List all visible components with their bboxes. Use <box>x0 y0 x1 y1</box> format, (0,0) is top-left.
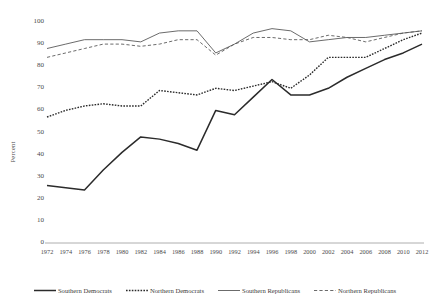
legend-swatch-icon <box>126 287 148 294</box>
legend-item: Southern Democrats <box>34 287 112 294</box>
x-axis-tick-label: 1982 <box>134 249 147 255</box>
x-axis-tick-label: 1980 <box>116 249 129 255</box>
legend-item: Northern Republicans <box>314 287 396 294</box>
legend-label: Northern Republicans <box>338 287 396 294</box>
x-axis-tick-label: 1974 <box>59 249 72 255</box>
x-axis-tick-label: 1978 <box>97 249 110 255</box>
legend-swatch-icon <box>218 287 240 294</box>
x-axis-tick-label: 1998 <box>284 249 297 255</box>
x-axis-tick-label: 1984 <box>153 249 166 255</box>
x-axis-tick-label: 2002 <box>322 249 335 255</box>
x-axis-tick-label: 1976 <box>78 249 91 255</box>
legend-swatch-icon <box>314 287 336 294</box>
legend-item: Southern Republicans <box>218 287 300 294</box>
legend-label: Northern Democrats <box>150 287 204 294</box>
x-axis-tick-label: 2006 <box>359 249 372 255</box>
x-axis-tick-label: 2012 <box>416 249 429 255</box>
x-axis-tick-label: 1996 <box>266 249 279 255</box>
legend-item: Northern Democrats <box>126 287 204 294</box>
x-axis-tick-label: 1986 <box>172 249 185 255</box>
x-axis-tick-label: 2008 <box>378 249 391 255</box>
x-axis-tick-label: 2000 <box>303 249 316 255</box>
x-axis-tick-label: 1992 <box>228 249 241 255</box>
x-axis-tick-label: 2004 <box>341 249 354 255</box>
x-axis-tick-label: 1990 <box>209 249 222 255</box>
line-chart: Percent 0102030405060708090100 197219741… <box>0 0 430 303</box>
legend-label: Southern Republicans <box>242 287 300 294</box>
legend-label: Southern Democrats <box>58 287 112 294</box>
x-axis-tick-label: 1988 <box>191 249 204 255</box>
x-axis-ticks: 1972197419761978198019821984198619881990… <box>0 0 430 303</box>
x-axis-tick-label: 1972 <box>41 249 54 255</box>
legend-swatch-icon <box>34 287 56 294</box>
x-axis-tick-label: 2010 <box>397 249 410 255</box>
chart-legend: Southern DemocratsNorthern DemocratsSout… <box>0 282 430 298</box>
x-axis-tick-label: 1994 <box>247 249 260 255</box>
